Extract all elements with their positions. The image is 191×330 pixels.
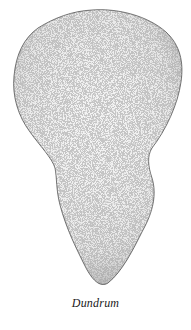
shape-body xyxy=(0,0,191,300)
stippled-shape-illustration xyxy=(0,0,191,330)
figure-caption: Dundrum xyxy=(0,296,191,311)
